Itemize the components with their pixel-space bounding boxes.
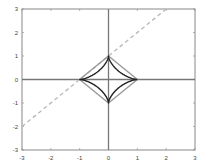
x-tick-label: -3	[19, 155, 25, 161]
x-tick-label: 0	[107, 155, 111, 161]
y-tick-label: -2	[13, 124, 19, 130]
chart: -3 -2 -1 0 1 2 3 3 2 1 0 -1 -2 -3	[0, 0, 206, 166]
x-tick-labels: -3 -2 -1 0 1 2 3	[19, 155, 197, 161]
y-tick-label: 3	[15, 6, 19, 12]
y-tick-labels: 3 2 1 0 -1 -2 -3	[13, 6, 19, 153]
y-tick-label: 1	[15, 53, 19, 59]
x-tick-label: -1	[77, 155, 83, 161]
y-tick-label: -3	[13, 147, 19, 153]
x-tick-label: 1	[136, 155, 140, 161]
y-tick-label: -1	[13, 100, 19, 106]
x-tick-label: -2	[48, 155, 54, 161]
y-tick-label: 0	[15, 77, 19, 83]
x-tick-label: 2	[165, 155, 169, 161]
x-tick-label: 3	[193, 155, 197, 161]
y-tick-label: 2	[15, 30, 19, 36]
